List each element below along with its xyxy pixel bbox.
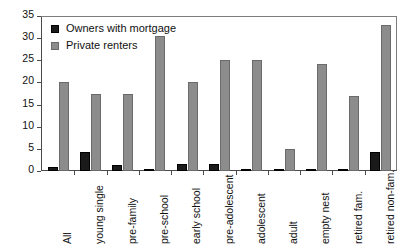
legend-item: Owners with mortgage xyxy=(51,22,176,35)
y-axis-tick-mark xyxy=(37,127,41,128)
bar-private-renters xyxy=(155,36,165,171)
y-axis-tick-label: 10 xyxy=(22,120,34,131)
y-axis-tick-label: 5 xyxy=(28,142,34,153)
bar-private-renters xyxy=(349,96,359,171)
x-axis-category-label: young single xyxy=(94,185,105,244)
x-axis-tick-mark xyxy=(332,171,333,175)
bar-owners-with-mortgage xyxy=(177,164,187,171)
y-axis-tick-mark xyxy=(37,105,41,106)
bar-owners-with-mortgage xyxy=(370,152,380,171)
legend-item-label: Private renters xyxy=(66,40,138,51)
legend-swatch-icon xyxy=(51,42,59,50)
y-axis-tick-mark xyxy=(37,38,41,39)
y-axis-tick-mark xyxy=(37,149,41,150)
y-axis-tick-label: 30 xyxy=(22,31,34,42)
x-axis-tick-mark xyxy=(268,171,269,175)
bar-private-renters xyxy=(91,94,101,171)
x-axis-tick-mark xyxy=(300,171,301,175)
bar-owners-with-mortgage xyxy=(80,152,90,171)
bar-private-renters xyxy=(220,60,230,171)
x-axis-category-label: pre-adolescent xyxy=(224,175,235,244)
y-axis: 35302520151050 xyxy=(0,16,41,171)
bar-private-renters xyxy=(317,64,327,171)
y-axis-tick-label: 0 xyxy=(28,164,34,175)
y-axis-tick-mark xyxy=(37,171,41,172)
y-axis-tick-label: 35 xyxy=(22,9,34,20)
bar-owners-with-mortgage xyxy=(209,164,219,171)
chart-legend: Owners with mortgagePrivate renters xyxy=(51,22,176,52)
x-axis-category-label: pre-family xyxy=(127,198,138,244)
y-axis-tick-label: 20 xyxy=(22,75,34,86)
bar-group xyxy=(300,16,332,171)
x-axis-category-label: early school xyxy=(191,188,202,244)
bar-chart: 35302520151050 Allyoung singlepre-family… xyxy=(0,0,412,248)
bar-group xyxy=(236,16,268,171)
x-axis-category-label: retired non-fam. xyxy=(385,170,396,244)
y-axis-tick-label: 25 xyxy=(22,53,34,64)
bar-private-renters xyxy=(285,149,295,171)
x-axis-category-label: empty nest xyxy=(320,193,331,244)
x-axis-tick-mark xyxy=(74,171,75,175)
bar-group xyxy=(332,16,364,171)
x-axis-category-label: adult xyxy=(288,221,299,244)
bar-group xyxy=(268,16,300,171)
x-axis-labels: Allyoung singlepre-familypre-schoolearly… xyxy=(42,176,397,248)
legend-item: Private renters xyxy=(51,39,176,52)
bar-private-renters xyxy=(381,25,391,171)
bar-private-renters xyxy=(123,94,133,171)
y-axis-tick-label: 15 xyxy=(22,98,34,109)
bar-private-renters xyxy=(59,82,69,171)
x-axis-category-label: retired fam. xyxy=(353,191,364,244)
bar-group xyxy=(203,16,235,171)
x-axis-tick-mark xyxy=(139,171,140,175)
legend-swatch-icon xyxy=(51,25,59,33)
y-axis-tick-mark xyxy=(37,60,41,61)
legend-item-label: Owners with mortgage xyxy=(66,23,176,34)
x-axis-tick-mark xyxy=(171,171,172,175)
bar-private-renters xyxy=(188,82,198,171)
x-axis-tick-mark xyxy=(365,171,366,175)
x-axis-category-label: adolescent xyxy=(256,193,267,244)
y-axis-tick-mark xyxy=(37,16,41,17)
x-axis-category-label: pre-school xyxy=(159,195,170,244)
x-axis-tick-mark xyxy=(236,171,237,175)
x-axis-tick-mark xyxy=(203,171,204,175)
bar-private-renters xyxy=(252,60,262,171)
x-axis-tick-mark xyxy=(107,171,108,175)
bar-group xyxy=(365,16,397,171)
x-axis-ticks xyxy=(42,171,397,175)
y-axis-tick-mark xyxy=(37,82,41,83)
x-axis-category-label: All xyxy=(62,232,73,244)
